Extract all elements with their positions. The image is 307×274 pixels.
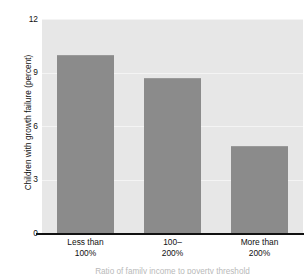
x-tick-label-line: More than [216, 237, 303, 248]
y-axis-tick-labels: 036912 [0, 0, 38, 274]
bar-2 [144, 78, 201, 233]
y-tick-label-9: 9 [4, 68, 38, 77]
y-tick-label-12: 12 [4, 15, 38, 24]
x-tick-label-line: 100– [129, 237, 216, 248]
x-axis-title: Ratio of family income to poverty thresh… [42, 267, 303, 274]
x-tick-label-line: 100% [42, 248, 129, 259]
bar-3 [231, 146, 288, 233]
x-tick-label-3: More than200% [216, 237, 303, 258]
y-tick-label-6: 6 [4, 122, 38, 131]
plot-area [42, 19, 303, 233]
x-tick-label-1: Less than100% [42, 237, 129, 258]
bars-layer [42, 19, 303, 233]
y-tick-label-3: 3 [4, 175, 38, 184]
x-tick-label-line: 200% [129, 248, 216, 259]
x-tick-label-line: 200% [216, 248, 303, 259]
x-tick-label-line: Less than [42, 237, 129, 248]
y-tick-label-0: 0 [4, 229, 38, 238]
bar-chart-figure: Children with growth failure (percent) 0… [0, 0, 307, 274]
bar-1 [57, 55, 114, 233]
x-axis-line [36, 233, 304, 235]
x-axis-tick-labels: Less than100%100–200%More than200% [42, 237, 303, 263]
x-tick-label-2: 100–200% [129, 237, 216, 258]
